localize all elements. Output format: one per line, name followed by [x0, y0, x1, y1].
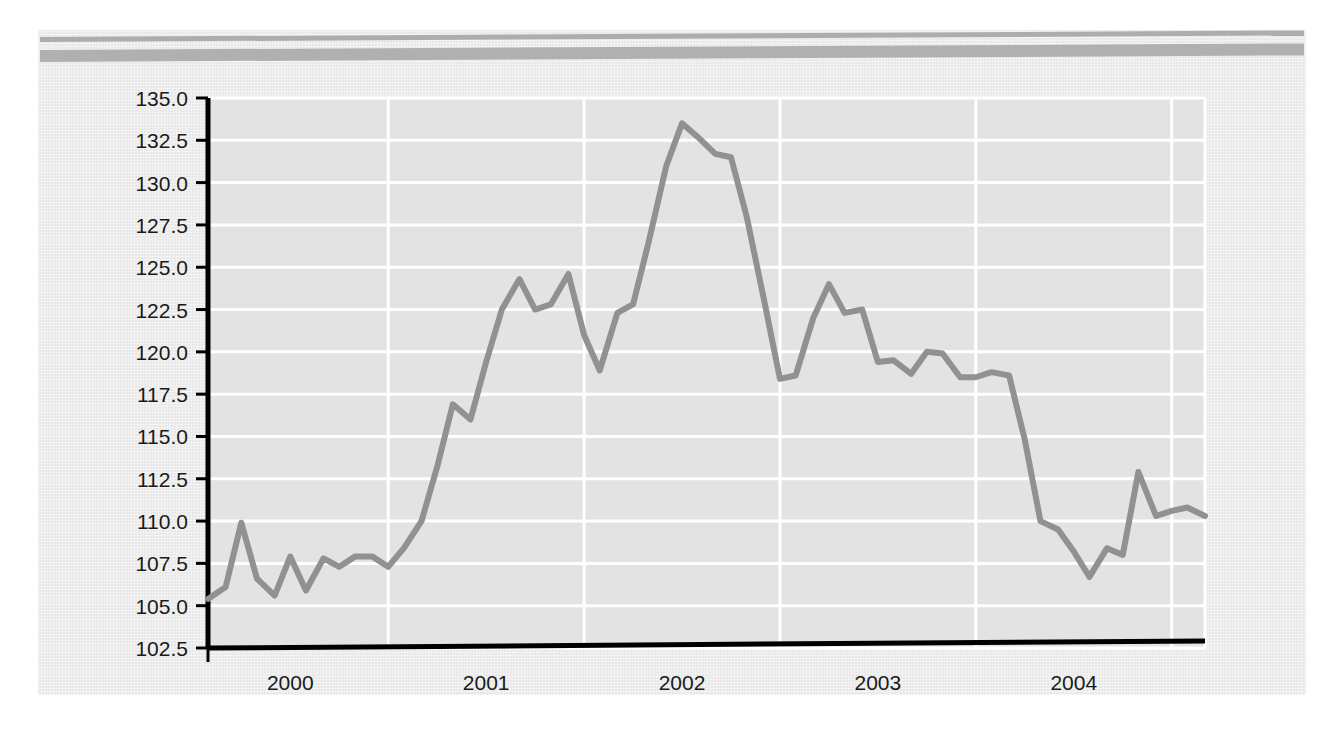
y-tick-label: 132.5	[135, 129, 188, 152]
y-tick-label: 135.0	[135, 87, 188, 110]
y-tick-label: 127.5	[135, 214, 188, 237]
x-tick-label: 2001	[463, 671, 510, 694]
x-axis-tick-labels: 20002001200220032004	[267, 671, 1098, 694]
y-tick-label: 130.0	[135, 172, 188, 195]
y-axis-tick-labels: 135.0132.5130.0127.5125.0122.5120.0117.5…	[135, 87, 188, 660]
y-tick-label: 107.5	[135, 552, 188, 575]
y-tick-label: 102.5	[135, 637, 188, 660]
x-tick-label: 2004	[1050, 671, 1097, 694]
chart-canvas: 135.0132.5130.0127.5125.0122.5120.0117.5…	[38, 62, 1306, 695]
x-tick-label: 2002	[659, 671, 706, 694]
y-tick-label: 125.0	[135, 256, 188, 279]
y-tick-label: 105.0	[135, 595, 188, 618]
y-tick-label: 110.0	[137, 510, 188, 533]
y-tick-label: 115.0	[137, 425, 188, 448]
y-tick-label: 120.0	[135, 341, 188, 364]
plot-background	[208, 98, 1205, 648]
screenshot-root: 135.0132.5130.0127.5125.0122.5120.0117.5…	[0, 0, 1340, 739]
y-tick-label: 122.5	[135, 299, 188, 322]
y-tick-label: 117.5	[137, 383, 188, 406]
y-tick-label: 112.5	[137, 468, 188, 491]
x-tick-label: 2003	[855, 671, 902, 694]
line-chart: 135.0132.5130.0127.5125.0122.5120.0117.5…	[38, 62, 1306, 695]
x-tick-label: 2000	[267, 671, 314, 694]
